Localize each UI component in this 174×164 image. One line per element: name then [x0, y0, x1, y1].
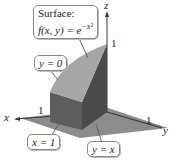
surface-title: Surface: [38, 7, 93, 20]
surface-formula: f(x, y) = e−x² [38, 20, 93, 37]
x-axis-label: x [4, 111, 9, 123]
y-axis-label: y [163, 124, 168, 136]
plane-y0-callout: y = 0 [34, 55, 67, 71]
x-tick-1: 1 [38, 104, 44, 116]
y0-pointer [50, 70, 58, 80]
plane-yx-callout: y = x [87, 141, 120, 157]
surface-pointer [78, 36, 88, 58]
z-axis-arrow [105, 11, 109, 17]
plane-x1-callout: x = 1 [27, 134, 60, 150]
z-tick-1: 1 [111, 37, 117, 49]
y-tick-1: 1 [146, 114, 152, 126]
z-axis-label: z [104, 0, 108, 11]
surface-callout: Surface: f(x, y) = e−x² [33, 5, 98, 39]
x-axis-arrow [14, 117, 20, 121]
